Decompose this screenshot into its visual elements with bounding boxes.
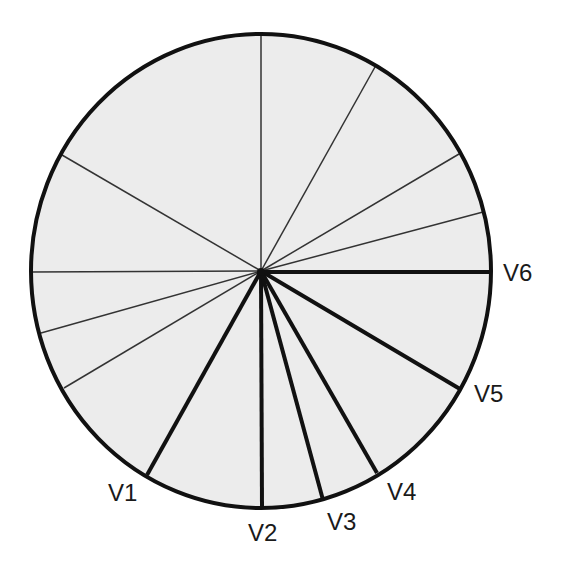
- lead-label-v6: V6: [503, 259, 532, 286]
- lead-axis-wheel: V1 V2 V3 V4 V5 V6: [0, 0, 563, 566]
- lead-label-v5: V5: [474, 380, 503, 407]
- precordial-lead-diagram: V1 V2 V3 V4 V5 V6: [0, 0, 563, 566]
- lead-label-v2: V2: [248, 519, 277, 546]
- reference-ray: [31, 271, 261, 272]
- lead-axis-v2: [261, 271, 262, 508]
- lead-label-v1: V1: [108, 479, 137, 506]
- lead-label-v4: V4: [387, 478, 416, 505]
- center-point: [257, 268, 265, 276]
- lead-label-v3: V3: [327, 508, 356, 535]
